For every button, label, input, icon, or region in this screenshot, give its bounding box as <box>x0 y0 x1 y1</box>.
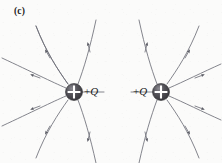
figure-panel: (c) <box>0 0 222 163</box>
right-charge-label-symbol: Q <box>139 85 147 97</box>
field-line <box>2 96 66 126</box>
field-line <box>169 64 221 88</box>
field-line <box>167 100 199 158</box>
field-line <box>139 100 157 163</box>
field-line <box>139 20 157 84</box>
left-charge-label-symbol: Q <box>90 85 98 97</box>
right-charge-label: +Q <box>133 85 147 97</box>
left-charge-label: +Q <box>84 85 98 97</box>
electric-field-diagram <box>0 0 222 163</box>
field-line <box>2 58 66 88</box>
field-line <box>36 26 68 84</box>
field-line <box>169 96 221 120</box>
field-line <box>36 26 68 84</box>
field-line <box>167 26 199 84</box>
right-charge-sphere <box>153 84 170 101</box>
field-line <box>36 100 68 158</box>
left-charge-sphere <box>66 84 83 101</box>
field-line <box>78 100 96 163</box>
field-line <box>78 20 96 84</box>
